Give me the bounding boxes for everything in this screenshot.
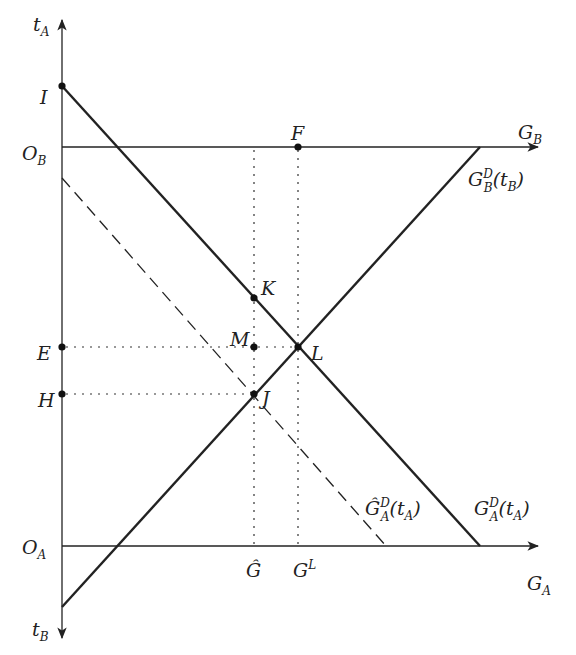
- label-tB: tB: [32, 618, 49, 644]
- label-GA-demand: GDA(tA): [474, 496, 530, 524]
- label-H: H: [37, 389, 55, 411]
- point-M: [250, 343, 257, 350]
- point-H: [58, 390, 65, 397]
- point-L: [294, 343, 301, 350]
- diagram-canvas: tA tB OB OA GB GA GDB(tB) GDA(tA) ĜDA(tA…: [0, 0, 576, 655]
- points: [58, 82, 301, 397]
- label-M: M: [229, 328, 250, 350]
- point-K: [250, 294, 257, 301]
- curve-GA-demand: [62, 86, 480, 546]
- curve-GB-demand: [62, 147, 480, 607]
- point-I: [58, 82, 65, 89]
- label-K: K: [260, 277, 277, 299]
- label-GB: GB: [518, 121, 542, 147]
- label-tA: tA: [33, 13, 50, 39]
- point-F: [294, 143, 301, 150]
- label-GA: GA: [527, 572, 551, 598]
- curve-GA-hat-demand: [62, 178, 386, 546]
- label-F: F: [290, 122, 305, 144]
- label-L: L: [310, 342, 324, 364]
- point-J: [250, 390, 257, 397]
- label-G-hat: Ĝ: [246, 559, 261, 581]
- label-GA-hat-demand: ĜDA(tA): [365, 496, 421, 524]
- point-E: [58, 343, 65, 350]
- label-GB-demand: GDB(tB): [468, 167, 524, 195]
- label-E: E: [36, 342, 51, 364]
- dotted-guides: [66, 150, 298, 544]
- label-GL: GL: [293, 558, 316, 581]
- label-I: I: [39, 86, 48, 108]
- label-OA: OA: [22, 536, 47, 562]
- label-OB: OB: [22, 142, 47, 168]
